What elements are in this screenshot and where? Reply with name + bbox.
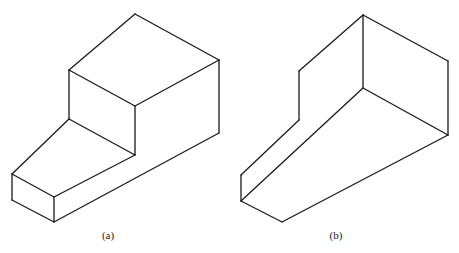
edge-line: [135, 60, 219, 106]
edge-line: [299, 15, 363, 71]
edge-line: [282, 135, 448, 222]
edge-line: [363, 88, 448, 135]
edge-line: [12, 200, 54, 222]
isometric-drawings: [0, 0, 459, 253]
edge-line: [54, 133, 219, 222]
edge-line: [363, 15, 448, 61]
figure-b-caption: (b): [321, 229, 351, 241]
edge-line: [69, 70, 135, 106]
edge-line: [135, 14, 219, 60]
figure-a-stepped-block-top-view: [12, 14, 219, 222]
edge-line: [241, 120, 299, 175]
figure-b-stepped-block-bottom-view: [241, 15, 448, 222]
edge-line: [69, 119, 135, 155]
edge-line: [12, 119, 69, 174]
edge-line: [241, 201, 282, 222]
edge-line: [12, 174, 54, 197]
figure-a-caption: (a): [93, 229, 123, 241]
edge-line: [241, 88, 363, 201]
edge-line: [69, 14, 135, 70]
diagram-canvas: (a) (b): [0, 0, 459, 253]
edge-line: [54, 155, 135, 197]
